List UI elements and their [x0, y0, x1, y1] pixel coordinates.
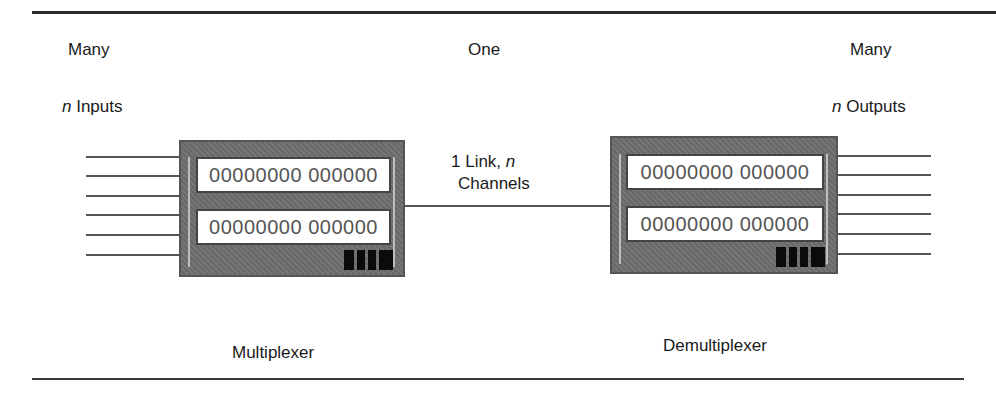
right-rail [826, 154, 828, 264]
n-variable: n [506, 152, 515, 171]
bottom-rule [32, 378, 964, 380]
input-line-6 [86, 254, 180, 256]
multiplexer-device: 00000000 000000 00000000 000000 [179, 140, 405, 277]
input-line-4 [86, 214, 180, 216]
left-rail [619, 154, 621, 264]
top-rule [32, 11, 996, 14]
demux-indicator-lights [776, 247, 825, 267]
indicator-light [776, 247, 786, 267]
one-link-heading: One [468, 40, 500, 60]
output-line-5 [838, 233, 931, 235]
inputs-text: Inputs [71, 97, 122, 116]
mux-display-panel-2: 00000000 000000 [196, 209, 391, 245]
left-rail [188, 157, 190, 267]
mux-indicator-lights [344, 250, 393, 270]
demultiplexer-caption: Demultiplexer [663, 336, 767, 356]
n-outputs-label: n Outputs [832, 97, 906, 117]
input-line-3 [86, 195, 180, 197]
demultiplexer-device: 00000000 000000 00000000 000000 [610, 136, 838, 274]
indicator-light [344, 250, 354, 270]
link-label-line1: 1 Link, n [451, 152, 515, 172]
output-line-4 [838, 213, 931, 215]
indicator-light [357, 250, 365, 270]
right-rail [393, 157, 395, 267]
link-line [405, 205, 610, 207]
input-line-5 [86, 234, 180, 236]
output-line-2 [838, 174, 931, 176]
mux-display-panel-1: 00000000 000000 [196, 157, 391, 193]
output-line-6 [838, 253, 931, 255]
input-line-1 [86, 156, 180, 158]
input-line-2 [86, 175, 180, 177]
link-label-line2: Channels [458, 174, 530, 194]
n-inputs-label: n Inputs [62, 97, 123, 117]
output-line-3 [838, 194, 931, 196]
indicator-light [789, 247, 797, 267]
indicator-light [800, 247, 808, 267]
demux-display-panel-1: 00000000 000000 [626, 154, 824, 190]
output-line-1 [838, 155, 931, 157]
link-text: 1 Link, [451, 152, 506, 171]
indicator-light [379, 250, 393, 270]
indicator-light [811, 247, 825, 267]
many-inputs-heading: Many [68, 40, 110, 60]
many-outputs-heading: Many [850, 40, 892, 60]
multiplexer-caption: Multiplexer [232, 343, 314, 363]
outputs-text: Outputs [841, 97, 905, 116]
demux-display-panel-2: 00000000 000000 [626, 206, 824, 242]
indicator-light [368, 250, 376, 270]
